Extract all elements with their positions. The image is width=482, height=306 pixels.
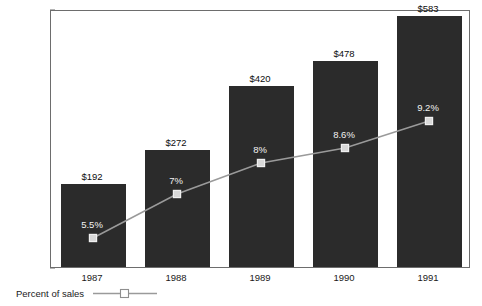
x-axis-tick-label: 1990 xyxy=(333,272,354,283)
x-axis-tick-label: 1989 xyxy=(249,272,270,283)
percent-value-label: 8.6% xyxy=(333,129,355,140)
x-axis-tick-label: 1988 xyxy=(165,272,186,283)
line-path xyxy=(93,121,429,238)
bar-value-label: $478 xyxy=(333,48,354,59)
percent-value-label: 5.5% xyxy=(81,219,103,230)
open-square-marker-icon xyxy=(93,288,157,299)
line-marker xyxy=(425,117,432,124)
line-marker xyxy=(173,190,180,197)
bar-value-label: $272 xyxy=(165,137,186,148)
line-marker xyxy=(257,159,264,166)
x-axis-tick-label: 1987 xyxy=(81,272,102,283)
bar-value-label: $192 xyxy=(81,171,102,182)
legend-label: Percent of sales xyxy=(16,288,84,299)
bar-value-label: $420 xyxy=(249,73,270,84)
percent-of-sales-line-series xyxy=(51,11,471,269)
x-axis-tick-label: 1991 xyxy=(417,272,438,283)
line-marker xyxy=(341,144,348,151)
bar-value-label: $583 xyxy=(417,3,438,14)
chart-legend: Percent of sales xyxy=(16,288,157,299)
line-marker xyxy=(89,234,96,241)
percent-value-label: 8% xyxy=(253,144,267,155)
percent-value-label: 7% xyxy=(169,175,183,186)
percent-value-label: 9.2% xyxy=(417,102,439,113)
plot-area xyxy=(50,10,470,268)
combination-bar-line-chart: Dollars (millions) $0$100$200$300$400$50… xyxy=(0,0,482,306)
